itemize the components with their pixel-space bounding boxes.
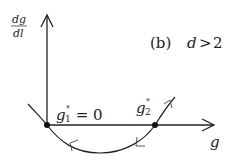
- condition-var: d: [187, 34, 197, 52]
- y-label-numerator: dg: [12, 13, 26, 26]
- g2-sub: 2: [145, 107, 151, 117]
- fixed-point-g1: [44, 122, 50, 128]
- g1-value: = 0: [71, 106, 103, 124]
- g2-sup: *: [146, 97, 150, 106]
- beta-function-diagram: dg dl (b) d > 2 g * 1 = 0 g * 2 g: [0, 0, 236, 162]
- condition-op: >: [199, 34, 212, 52]
- condition-val: 2: [213, 34, 223, 52]
- g1-sub: 1: [65, 114, 71, 124]
- panel-label: (b): [150, 34, 171, 52]
- g1-sup: *: [66, 104, 70, 113]
- fixed-point-g2: [152, 122, 158, 128]
- x-axis-label: g: [210, 133, 220, 151]
- y-label-denominator: dl: [13, 27, 24, 40]
